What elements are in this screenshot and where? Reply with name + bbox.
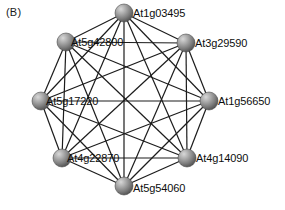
graph-node[interactable] xyxy=(178,149,196,167)
node-label: At4g14090 xyxy=(196,153,248,164)
node-label: At5g54060 xyxy=(133,183,185,194)
node-label: At5g42800 xyxy=(71,37,123,48)
graph-node[interactable] xyxy=(200,92,218,110)
node-label: At4g22870 xyxy=(67,153,119,164)
graph-edge xyxy=(124,101,209,186)
graph-node[interactable] xyxy=(115,177,133,195)
graph-node[interactable] xyxy=(177,34,195,52)
node-label: At1g56650 xyxy=(218,96,270,107)
node-label: At3g29590 xyxy=(195,38,247,49)
graph-edge xyxy=(124,13,187,158)
node-label: At5g17220 xyxy=(46,96,98,107)
network-figure: (B) At1g03495At3g29590At1g56650At4g14090… xyxy=(0,0,285,210)
graph-edge xyxy=(41,101,124,186)
node-label: At1g03495 xyxy=(133,8,185,19)
graph-node[interactable] xyxy=(115,4,133,22)
